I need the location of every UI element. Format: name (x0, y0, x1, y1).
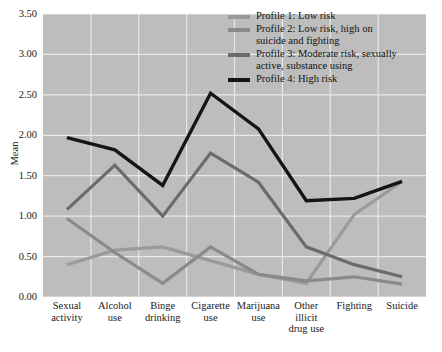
x-axis-tick-label: Alcohol use (98, 300, 132, 323)
legend-label: Profile 4: High risk (256, 73, 337, 85)
legend-swatch-icon (228, 15, 250, 19)
legend-item-2[interactable]: Profile 2: Low risk, high on suicide and… (228, 23, 434, 47)
legend-swatch-icon (228, 78, 250, 82)
legend-item-4[interactable]: Profile 4: High risk (228, 73, 434, 85)
x-axis: Sexual activityAlcohol useBinge drinking… (43, 300, 426, 352)
y-axis-tick-label: 3.00 (19, 49, 37, 60)
y-axis-tick-label: 1.50 (19, 170, 37, 181)
x-axis-tick-label: Marijuana use (237, 300, 280, 323)
x-axis-tick-label: Sexual activity (51, 300, 83, 323)
y-axis-tick-label: 2.00 (19, 130, 37, 141)
x-axis-tick-label: Fighting (336, 300, 372, 312)
y-axis-tick-label: 0.00 (19, 292, 37, 303)
legend-swatch-icon (228, 53, 250, 57)
legend: Profile 1: Low riskProfile 2: Low risk, … (228, 10, 434, 86)
legend-swatch-icon (228, 28, 250, 32)
legend-item-3[interactable]: Profile 3: Moderate risk, sexually activ… (228, 48, 434, 72)
y-axis-title: Mean (9, 124, 20, 184)
x-axis-tick-label: Binge drinking (145, 300, 181, 323)
y-axis-tick-label: 2.50 (19, 90, 37, 101)
legend-item-1[interactable]: Profile 1: Low risk (228, 10, 434, 22)
legend-label: Profile 2: Low risk, high on suicide and… (256, 23, 373, 47)
line-chart: 0.000.501.001.502.002.503.003.50 Mean Se… (0, 0, 442, 352)
y-axis-tick-label: 3.50 (19, 9, 37, 20)
x-axis-tick-label: Cigarette use (191, 300, 229, 323)
legend-label: Profile 1: Low risk (256, 10, 336, 22)
x-axis-tick-label: Other illicit drug use (288, 300, 324, 335)
y-axis-tick-label: 1.00 (19, 211, 37, 222)
legend-label: Profile 3: Moderate risk, sexually activ… (256, 48, 397, 72)
y-axis: 0.000.501.001.502.002.503.003.50 (0, 0, 41, 352)
y-axis-tick-label: 0.50 (19, 251, 37, 262)
x-axis-tick-label: Suicide (386, 300, 418, 312)
